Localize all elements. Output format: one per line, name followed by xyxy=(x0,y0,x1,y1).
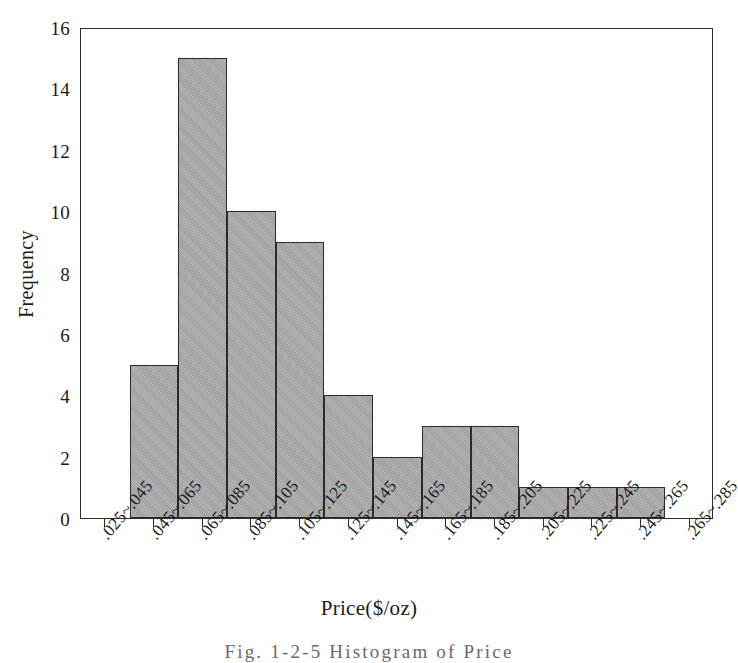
plot-area xyxy=(80,28,713,519)
y-axis-tick-label: 4 xyxy=(36,387,70,406)
y-axis-tick-label: 16 xyxy=(36,19,70,38)
y-axis-tick-label: 14 xyxy=(36,80,70,99)
y-axis-tick-label: 12 xyxy=(36,141,70,160)
y-axis-tick-label: 2 xyxy=(36,448,70,467)
histogram-bar xyxy=(227,211,276,518)
y-axis-tick-label: 10 xyxy=(36,203,70,222)
bars-layer xyxy=(81,29,712,518)
y-axis-tick-label: 8 xyxy=(36,264,70,283)
y-axis-label-container: Frequency xyxy=(14,28,38,519)
figure-caption: Fig. 1-2-5 Histogram of Price xyxy=(0,641,738,663)
y-axis-tick-label: 0 xyxy=(36,510,70,529)
y-axis-label: Frequency xyxy=(15,229,38,317)
x-axis-title: Price($/oz) xyxy=(0,596,738,621)
histogram-bar xyxy=(178,58,227,518)
histogram-bar xyxy=(276,242,325,518)
y-axis-tick-label: 6 xyxy=(36,325,70,344)
